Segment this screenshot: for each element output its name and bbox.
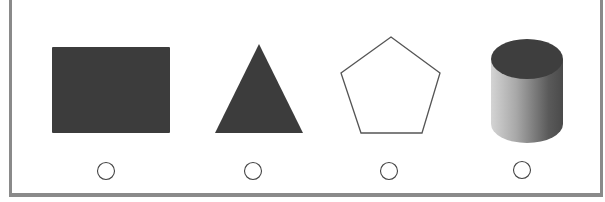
- radio-option-a[interactable]: [98, 163, 115, 180]
- triangle-shape: [215, 44, 303, 133]
- radio-option-c[interactable]: [381, 163, 398, 180]
- cylinder-top: [491, 39, 563, 79]
- option-d-shape: [491, 39, 563, 143]
- shapes-canvas: [0, 0, 605, 202]
- pentagon-shape: [341, 37, 440, 133]
- radio-option-d[interactable]: [514, 162, 531, 179]
- option-b-shape: [215, 44, 303, 133]
- rectangle-shape: [52, 47, 170, 133]
- option-a-shape: [52, 47, 170, 133]
- radio-option-b[interactable]: [245, 163, 262, 180]
- option-c-shape: [341, 37, 440, 133]
